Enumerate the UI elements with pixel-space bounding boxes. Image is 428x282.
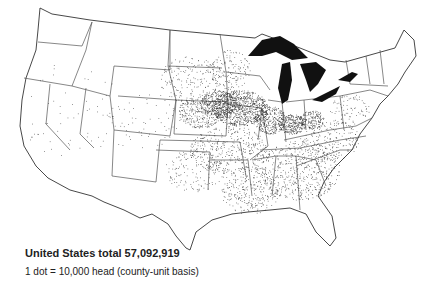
- lake-erie: [312, 86, 340, 102]
- lake-michigan: [278, 62, 292, 104]
- state-borders: [24, 22, 388, 210]
- lake-huron: [300, 62, 326, 92]
- great-lakes: [248, 36, 358, 104]
- map-figure: United States total 57,092,919 1 dot = 1…: [0, 0, 428, 282]
- dot-legend: 1 dot = 10,000 head (county-unit basis): [25, 266, 199, 277]
- us-total-label: United States total 57,092,919: [25, 247, 180, 259]
- us-outline: [20, 8, 416, 250]
- us-map: [0, 0, 428, 282]
